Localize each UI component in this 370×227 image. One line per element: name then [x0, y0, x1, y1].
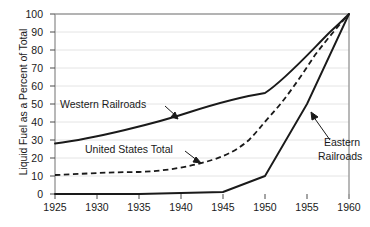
y-tick-label-30: 30: [17, 134, 43, 146]
y-tick-label-90: 90: [17, 26, 43, 38]
series-label-eastern-railroads-line1: Eastern: [324, 136, 360, 148]
plot-area: [0, 0, 370, 227]
x-tick-label-1935: 1935: [119, 201, 159, 213]
y-tick-label-70: 70: [17, 62, 43, 74]
y-tick-label-0: 0: [17, 188, 43, 200]
y-tick-label-60: 60: [17, 80, 43, 92]
y-tick-label-50: 50: [17, 98, 43, 110]
eastern-leader-arrowhead: [311, 112, 318, 120]
series-label-western-railroads: Western Railroads: [60, 98, 146, 110]
y-tick-label-80: 80: [17, 44, 43, 56]
x-tick-label-1945: 1945: [203, 201, 243, 213]
y-tick-label-10: 10: [17, 170, 43, 182]
y-tick-marks: [50, 14, 55, 194]
series-label-eastern-railroads-line2: Railroads: [318, 150, 362, 162]
series-label-united-states-total: United States Total: [85, 143, 173, 155]
line-chart: Liquid Fuel as a Percent of Total 100 90…: [0, 0, 370, 227]
y-tick-label-100: 100: [17, 8, 43, 20]
x-tick-label-1940: 1940: [161, 201, 201, 213]
x-tick-label-1960: 1960: [329, 201, 369, 213]
y-tick-label-40: 40: [17, 116, 43, 128]
x-tick-label-1925: 1925: [35, 201, 75, 213]
x-tick-label-1930: 1930: [77, 201, 117, 213]
annotation-leaders: [165, 106, 330, 163]
y-tick-label-20: 20: [17, 152, 43, 164]
x-tick-label-1955: 1955: [287, 201, 327, 213]
series-western-railroads: [55, 14, 349, 144]
x-tick-label-1950: 1950: [245, 201, 285, 213]
